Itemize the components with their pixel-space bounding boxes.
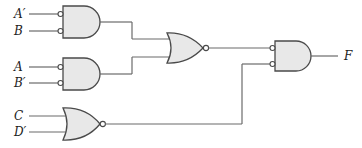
- inversion-bubble: [58, 12, 63, 17]
- input-label-c: C: [14, 109, 23, 123]
- inversion-bubble: [203, 45, 208, 50]
- and-gate-2: [58, 58, 100, 90]
- inversion-bubble: [270, 62, 275, 67]
- inversion-bubble: [58, 65, 63, 70]
- inversion-bubble: [270, 46, 275, 51]
- inversion-bubble: [100, 121, 105, 126]
- input-label-b-prime: B′: [13, 76, 26, 90]
- nor-gate-middle: [167, 33, 209, 63]
- and-gate-output: [270, 41, 311, 71]
- input-label-b: B: [13, 24, 23, 38]
- inversion-bubble: [58, 29, 63, 34]
- input-label-a: A: [13, 60, 23, 74]
- nor-gate-bottom: [63, 108, 105, 140]
- input-label-d-prime: D′: [13, 125, 27, 139]
- logic-circuit-diagram: A′ B A B′ C D′: [0, 0, 362, 148]
- inversion-bubble: [58, 81, 63, 86]
- and-gate-1: [58, 6, 100, 38]
- input-label-a-prime: A′: [13, 7, 26, 21]
- output-label-f: F: [343, 49, 353, 63]
